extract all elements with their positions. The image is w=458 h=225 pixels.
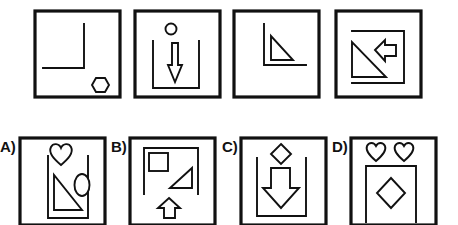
ellipse-icon bbox=[75, 174, 90, 196]
square-icon bbox=[149, 153, 168, 171]
down-arrow-icon bbox=[263, 168, 299, 208]
option-label-c: C) bbox=[222, 139, 238, 154]
option-b[interactable] bbox=[128, 136, 218, 225]
hexagon-icon bbox=[92, 78, 109, 92]
triangle-icon bbox=[271, 36, 293, 60]
circle-icon bbox=[166, 24, 177, 35]
triangle-icon bbox=[170, 168, 192, 188]
sequence-panel-2 bbox=[133, 9, 223, 99]
heart-icon bbox=[50, 144, 72, 165]
sequence-panel-3 bbox=[232, 9, 322, 99]
sequence-panel-4 bbox=[334, 9, 424, 99]
option-c[interactable] bbox=[239, 136, 329, 225]
option-d[interactable] bbox=[349, 136, 439, 225]
sequence-panel-1 bbox=[33, 9, 123, 99]
option-a[interactable] bbox=[18, 136, 108, 225]
heart-icon bbox=[395, 143, 414, 161]
heart-icon bbox=[367, 143, 386, 161]
diamond-icon bbox=[271, 144, 291, 164]
option-label-a: A) bbox=[0, 139, 16, 154]
option-label-d: D) bbox=[332, 139, 348, 154]
option-label-b: B) bbox=[111, 139, 127, 154]
diamond-icon bbox=[377, 178, 405, 208]
down-arrow-icon bbox=[168, 43, 182, 82]
left-arrow-icon bbox=[375, 40, 396, 61]
up-arrow-icon bbox=[158, 198, 180, 218]
corner-bracket-icon bbox=[43, 24, 84, 68]
